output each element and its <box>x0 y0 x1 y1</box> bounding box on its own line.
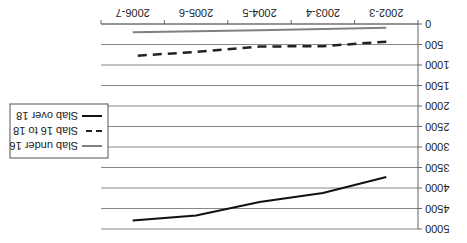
y-tick-label: 1000 <box>425 59 449 71</box>
x-tick-label: 2002-3 <box>369 7 403 19</box>
series-line <box>133 42 387 56</box>
x-tick-label: 2004-5 <box>242 7 276 19</box>
y-tick-label: 1500 <box>425 80 449 92</box>
y-tick-label: 4500 <box>425 203 449 215</box>
y-tick-label: 5000 <box>425 223 449 235</box>
legend-label: Slab under 16 <box>10 140 79 152</box>
series-line <box>133 28 387 33</box>
y-tick-label: 3000 <box>425 141 449 153</box>
x-tick-label: 2005-6 <box>179 7 213 19</box>
series-line <box>133 177 387 220</box>
y-tick-label: 4000 <box>425 182 449 194</box>
x-tick-label: 2006-7 <box>116 7 150 19</box>
x-tick-label: 2003-4 <box>306 7 340 19</box>
y-tick-label: 2500 <box>425 121 449 133</box>
y-tick-label: 0 <box>425 18 431 30</box>
line-chart: 0500100015002000250030003500400045005000… <box>0 0 467 243</box>
legend-label: Slab over 18 <box>16 110 78 122</box>
y-tick-label: 3500 <box>425 162 449 174</box>
legend-label: Slab 16 to 18 <box>13 125 78 137</box>
y-tick-label: 2000 <box>425 100 449 112</box>
chart-container: 0500100015002000250030003500400045005000… <box>0 0 467 243</box>
y-tick-label: 500 <box>425 39 443 51</box>
